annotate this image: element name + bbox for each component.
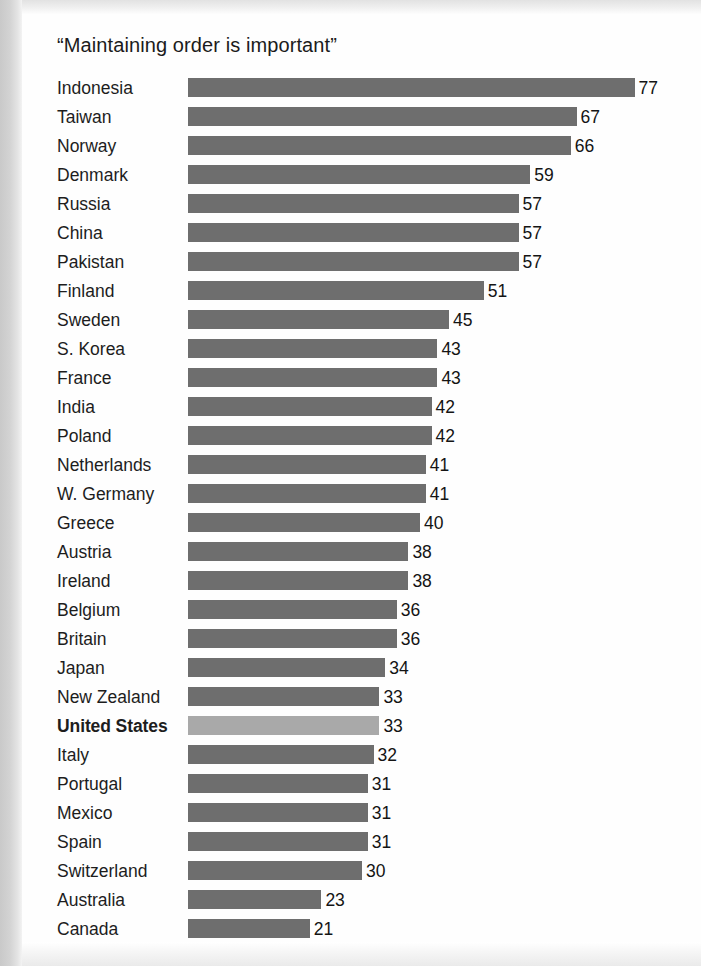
- bar-value-label: 36: [401, 599, 420, 621]
- bar-track: 51: [188, 281, 701, 302]
- bar: [188, 600, 397, 619]
- bar-row: France43: [22, 367, 701, 396]
- bar-row: Taiwan67: [22, 106, 701, 135]
- bar-track: 77: [188, 78, 701, 99]
- bar-value-label: 36: [401, 628, 420, 650]
- bar-row: Netherlands41: [22, 454, 701, 483]
- bar-value-label: 51: [488, 280, 507, 302]
- bar-category-label: Greece: [57, 512, 187, 534]
- bar: [188, 484, 426, 503]
- bar-row: Indonesia77: [22, 77, 701, 106]
- bar-row: Greece40: [22, 512, 701, 541]
- bar-value-label: 33: [383, 715, 402, 737]
- bar-row: Denmark59: [22, 164, 701, 193]
- bar-category-label: China: [57, 222, 187, 244]
- bar: [188, 165, 530, 184]
- bar-category-label: Australia: [57, 889, 187, 911]
- bar-row: Mexico31: [22, 802, 701, 831]
- bar-track: 30: [188, 861, 701, 882]
- bar-row: Ireland38: [22, 570, 701, 599]
- bar-value-label: 31: [372, 773, 391, 795]
- bar-row: Portugal31: [22, 773, 701, 802]
- bar-category-label: Sweden: [57, 309, 187, 331]
- bar-category-label: Ireland: [57, 570, 187, 592]
- bar: [188, 455, 426, 474]
- bar-row: W. Germany41: [22, 483, 701, 512]
- bar-value-label: 57: [523, 193, 542, 215]
- bar-category-label: Canada: [57, 918, 187, 940]
- bar-track: 33: [188, 687, 701, 708]
- bar-category-label: United States: [57, 715, 187, 737]
- bar-track: 42: [188, 426, 701, 447]
- bar-track: 40: [188, 513, 701, 534]
- bar-value-label: 40: [424, 512, 443, 534]
- bar-row: Britain36: [22, 628, 701, 657]
- bar-chart: Indonesia77Taiwan67Norway66Denmark59Russ…: [22, 77, 701, 947]
- bar-value-label: 38: [412, 541, 431, 563]
- scan-band-top: [22, 0, 701, 14]
- bar-category-label: New Zealand: [57, 686, 187, 708]
- bar: [188, 426, 432, 445]
- bar-value-label: 23: [325, 889, 344, 911]
- bar: [188, 803, 368, 822]
- bar-category-label: India: [57, 396, 187, 418]
- bar: [188, 107, 577, 126]
- bar-category-label: Russia: [57, 193, 187, 215]
- bar-category-label: Poland: [57, 425, 187, 447]
- bar-value-label: 57: [523, 222, 542, 244]
- bar-value-label: 33: [383, 686, 402, 708]
- bar-category-label: S. Korea: [57, 338, 187, 360]
- bar: [188, 774, 368, 793]
- bar-track: 31: [188, 803, 701, 824]
- bar-category-label: W. Germany: [57, 483, 187, 505]
- bar-value-label: 57: [523, 251, 542, 273]
- bar-row: Japan34: [22, 657, 701, 686]
- bar-track: 23: [188, 890, 701, 911]
- bar: [188, 716, 379, 735]
- bar-row: Sweden45: [22, 309, 701, 338]
- bar: [188, 513, 420, 532]
- bar-row: Russia57: [22, 193, 701, 222]
- bar-value-label: 30: [366, 860, 385, 882]
- bar-track: 45: [188, 310, 701, 331]
- bar: [188, 861, 362, 880]
- bar-category-label: Taiwan: [57, 106, 187, 128]
- bar-track: 31: [188, 832, 701, 853]
- bar-category-label: Austria: [57, 541, 187, 563]
- bar-row: India42: [22, 396, 701, 425]
- bar-track: 59: [188, 165, 701, 186]
- bar: [188, 310, 449, 329]
- bar-value-label: 59: [534, 164, 553, 186]
- bar-row: Finland51: [22, 280, 701, 309]
- bar-value-label: 42: [436, 425, 455, 447]
- bar-row: Pakistan57: [22, 251, 701, 280]
- scan-gutter-left: [0, 0, 22, 966]
- bar: [188, 629, 397, 648]
- bar-category-label: Norway: [57, 135, 187, 157]
- bar-category-label: France: [57, 367, 187, 389]
- bar-row: Norway66: [22, 135, 701, 164]
- bar-category-label: Mexico: [57, 802, 187, 824]
- bar-value-label: 34: [389, 657, 408, 679]
- bar-category-label: Japan: [57, 657, 187, 679]
- bar-row: Spain31: [22, 831, 701, 860]
- bar: [188, 78, 635, 97]
- bar: [188, 542, 408, 561]
- scan-band-bottom: [22, 942, 701, 966]
- bar-value-label: 43: [441, 338, 460, 360]
- bar-value-label: 41: [430, 483, 449, 505]
- bar-value-label: 77: [639, 77, 658, 99]
- bar-row: Belgium36: [22, 599, 701, 628]
- bar-category-label: Belgium: [57, 599, 187, 621]
- bar-track: 21: [188, 919, 701, 940]
- bar-category-label: Switzerland: [57, 860, 187, 882]
- bar: [188, 571, 408, 590]
- chart-title: “Maintaining order is important”: [57, 34, 337, 57]
- bar: [188, 890, 321, 909]
- bar-track: 57: [188, 223, 701, 244]
- bar-row: Poland42: [22, 425, 701, 454]
- bar-track: 38: [188, 542, 701, 563]
- bar-row: China57: [22, 222, 701, 251]
- bar: [188, 745, 374, 764]
- bar: [188, 919, 310, 938]
